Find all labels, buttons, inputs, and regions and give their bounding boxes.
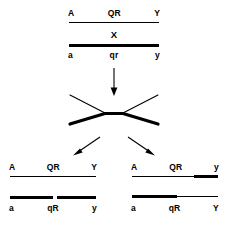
down-arrow — [111, 68, 118, 96]
parent-bottom-chromatid — [69, 44, 159, 47]
crossover-x-label: X — [68, 30, 160, 40]
recombinant-right-top-caption: A QR y — [131, 163, 219, 172]
recombinant-left-top-allele-center: QR — [47, 163, 60, 172]
parent-bottom-caption: a qr y — [68, 51, 160, 60]
parent-bottom-allele-center: qr — [110, 51, 119, 60]
recombinant-left-top-caption: A QR Y — [9, 163, 97, 172]
recombinant-right-top-chromatid-thin-segment — [132, 176, 194, 177]
parent-top-allele-center: QR — [108, 9, 121, 18]
recombinant-left-bottom-allele-center: qR — [47, 204, 59, 213]
recombinant-right-top-allele-right: y — [214, 163, 219, 172]
crossing-over-diagram: A QR Y X a qr y A QR Y a qR — [0, 0, 229, 228]
recombinant-right-top-allele-center: QR — [169, 163, 182, 172]
parent-top-chromatid — [69, 22, 159, 23]
parent-top-allele-left: A — [68, 9, 74, 18]
split-arrow-right — [128, 137, 155, 156]
split-arrow-left — [73, 137, 100, 156]
recombinant-left-bottom-chromatid-notch — [53, 196, 57, 200]
recombinant-right-bottom-allele-center: qR — [169, 204, 181, 213]
parent-bottom-allele-right: y — [155, 51, 160, 60]
parent-bottom-allele-left: a — [68, 51, 73, 60]
chiasma-thick-strands — [70, 114, 158, 125]
recombinant-right-bottom-allele-right: Y — [213, 204, 219, 213]
recombinant-right-bottom-chromatid-thick-segment — [132, 195, 177, 198]
recombinant-right-bottom-caption: a qR Y — [131, 204, 219, 213]
recombinant-left-top-allele-right: Y — [91, 163, 97, 172]
recombinant-right-bottom-chromatid-thin-segment — [177, 196, 218, 197]
recombinant-left-bottom-allele-left: a — [9, 204, 14, 213]
recombinant-right-top-chromatid-thick-segment — [194, 175, 218, 178]
recombinant-left-bottom-allele-right: y — [92, 204, 97, 213]
recombinant-right-top-allele-left: A — [131, 163, 137, 172]
recombinant-left-top-allele-left: A — [9, 163, 15, 172]
chiasma-thin-strands — [70, 95, 158, 113]
recombinant-left-bottom-caption: a qR y — [9, 204, 97, 213]
recombinant-right-bottom-allele-left: a — [131, 204, 136, 213]
parent-top-allele-right: Y — [154, 9, 160, 18]
recombinant-left-top-chromatid — [10, 176, 96, 177]
parent-top-caption: A QR Y — [68, 9, 160, 18]
